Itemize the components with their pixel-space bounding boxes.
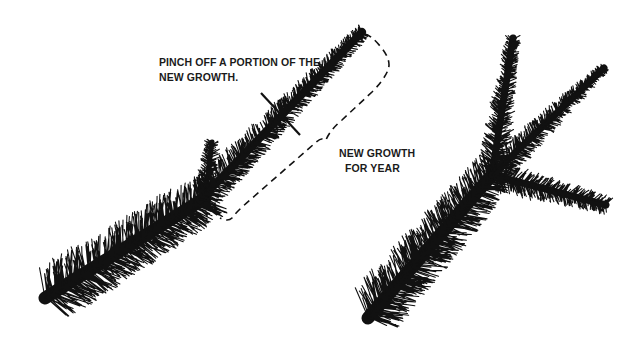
pinch-label-line-1: PINCH OFF A PORTION OF THE [159,55,320,70]
new-growth-label: NEW GROWTH FOR YEAR [339,146,415,176]
right-branch-illustration [355,36,612,328]
pinch-instruction-label: PINCH OFF A PORTION OF THE NEW GROWTH. [159,55,320,85]
pruning-diagram [0,0,633,349]
new-growth-label-line-1: NEW GROWTH [339,146,415,161]
pinch-label-line-2: NEW GROWTH. [159,70,320,85]
new-growth-label-line-2: FOR YEAR [339,161,415,176]
